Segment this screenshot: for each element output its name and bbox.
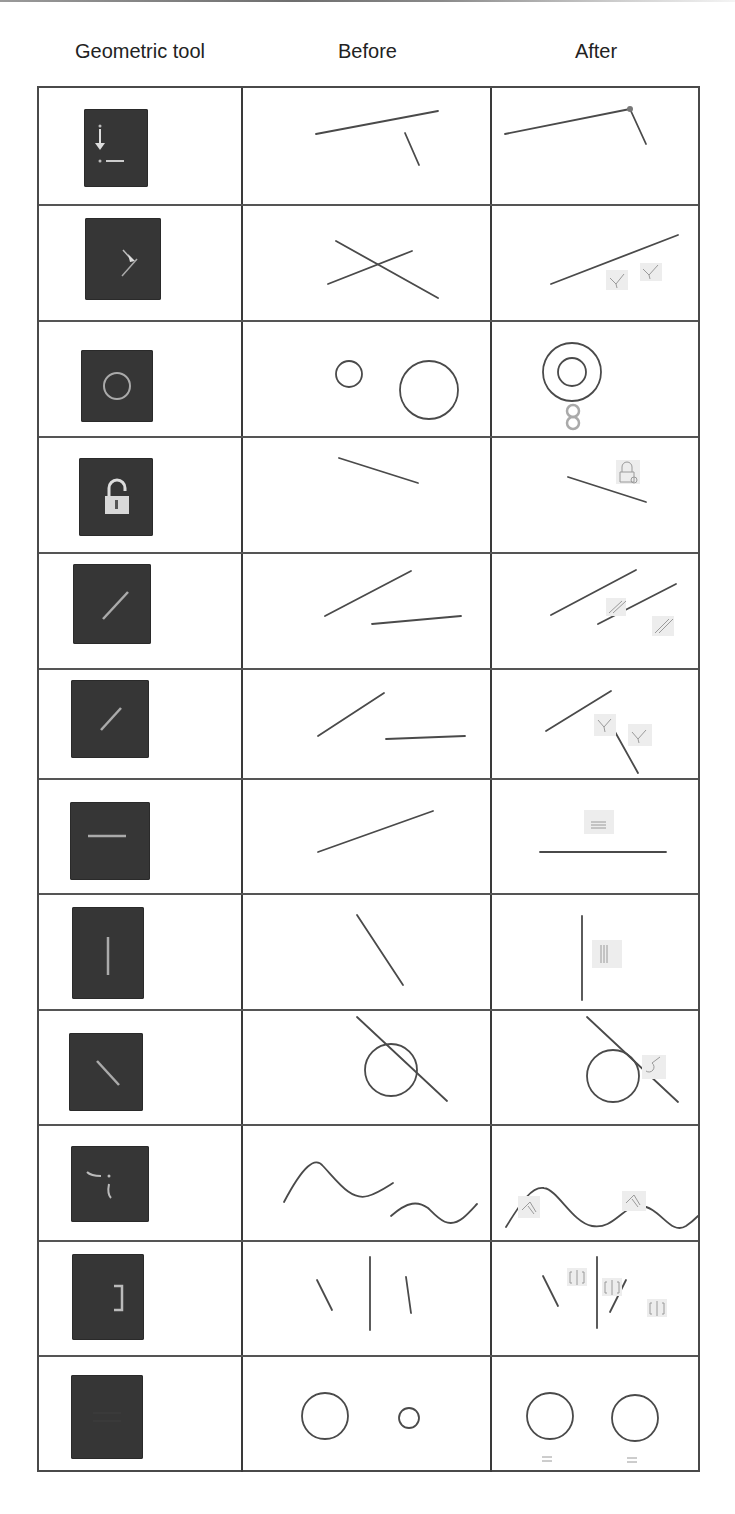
before-cell (243, 206, 492, 320)
after-drawing (492, 1011, 698, 1126)
tool-cell (39, 206, 243, 320)
before-cell (243, 322, 492, 436)
before-cell (243, 670, 492, 778)
before-drawing (243, 1011, 492, 1126)
after-drawing (492, 1126, 698, 1242)
before-drawing (243, 322, 492, 438)
after-drawing (492, 88, 698, 204)
after-cell (492, 554, 698, 668)
after-drawing (492, 895, 698, 1011)
before-cell (243, 1357, 492, 1472)
before-cell (243, 88, 492, 204)
before-cell (243, 1011, 492, 1124)
top-edge-strip (0, 0, 735, 2)
equal-icon[interactable] (71, 1375, 143, 1459)
before-drawing (243, 895, 492, 1011)
after-drawing (492, 438, 698, 554)
after-drawing (492, 1242, 698, 1357)
vertical-icon[interactable] (72, 907, 144, 999)
concentric-icon[interactable] (81, 350, 153, 422)
table-row-symmetric (39, 1240, 698, 1355)
after-cell (492, 88, 698, 204)
after-cell (492, 1126, 698, 1240)
before-cell (243, 780, 492, 893)
tool-cell (39, 322, 243, 436)
after-cell (492, 1242, 698, 1355)
tool-cell (39, 780, 243, 893)
tool-cell (39, 1126, 243, 1240)
symmetric-icon[interactable] (72, 1254, 144, 1340)
before-drawing (243, 1242, 492, 1357)
after-cell (492, 670, 698, 778)
before-cell (243, 554, 492, 668)
tool-cell (39, 895, 243, 1009)
after-drawing (492, 670, 698, 780)
tool-cell (39, 88, 243, 204)
lock-icon[interactable] (79, 458, 153, 536)
table-row-vertical (39, 893, 698, 1009)
perpendicular-line-icon[interactable] (71, 680, 149, 758)
before-cell (243, 1242, 492, 1355)
before-cell (243, 1126, 492, 1240)
coincident-icon[interactable] (84, 109, 148, 187)
before-drawing (243, 206, 492, 322)
table-row-perpendicular-lines (39, 668, 698, 778)
tangent-icon[interactable] (69, 1033, 143, 1111)
after-drawing (492, 554, 698, 670)
table-row-tangent (39, 1009, 698, 1124)
tool-cell (39, 554, 243, 668)
table-row-coincident (39, 88, 698, 204)
after-drawing (492, 1357, 698, 1474)
perpendicular-icon[interactable] (85, 218, 161, 300)
before-drawing (243, 438, 492, 554)
parallel-icon[interactable] (73, 564, 151, 644)
table-row-horizontal (39, 778, 698, 893)
column-header-before: Before (243, 40, 492, 63)
after-cell (492, 895, 698, 1009)
after-cell (492, 438, 698, 552)
horizontal-icon[interactable] (70, 802, 150, 880)
tool-cell (39, 1357, 243, 1472)
after-cell (492, 322, 698, 436)
before-drawing (243, 1357, 492, 1474)
before-drawing (243, 780, 492, 895)
table-row-parallel (39, 552, 698, 668)
before-cell (243, 438, 492, 552)
constraint-table (37, 86, 700, 1472)
before-drawing (243, 670, 492, 780)
after-cell (492, 1011, 698, 1124)
table-row-fix (39, 436, 698, 552)
before-cell (243, 895, 492, 1009)
after-drawing (492, 322, 698, 438)
tool-cell (39, 1011, 243, 1124)
table-row-perpendicular (39, 204, 698, 320)
table-row-concentric (39, 320, 698, 436)
after-cell (492, 1357, 698, 1472)
table-row-smooth (39, 1124, 698, 1240)
smooth-icon[interactable] (71, 1146, 149, 1222)
after-drawing (492, 206, 698, 322)
tool-cell (39, 1242, 243, 1355)
before-drawing (243, 1126, 492, 1242)
after-cell (492, 206, 698, 320)
tool-cell (39, 670, 243, 778)
column-header-tool: Geometric tool (37, 40, 243, 63)
before-drawing (243, 554, 492, 670)
after-cell (492, 780, 698, 893)
after-drawing (492, 780, 698, 895)
column-header-after: After (492, 40, 700, 63)
before-drawing (243, 88, 492, 204)
table-row-equal (39, 1355, 698, 1472)
tool-cell (39, 438, 243, 552)
